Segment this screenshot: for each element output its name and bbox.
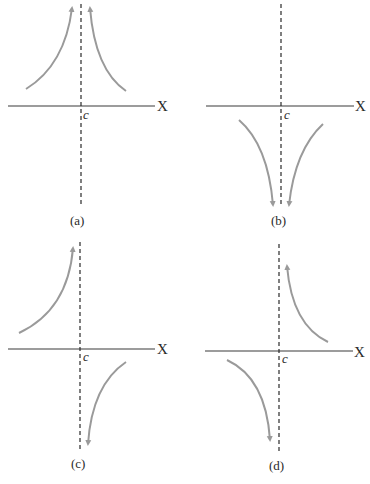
panel-c: X c (c): [8, 242, 168, 471]
point-label-c: c: [282, 351, 288, 366]
point-label-c: c: [83, 349, 89, 364]
axis-label-x: X: [354, 344, 365, 360]
caption-a: (a): [70, 213, 84, 228]
curve-right-down: [88, 362, 126, 444]
asymptote-diagrams: X c (a) X c (b) X c (c) X c (d): [0, 0, 370, 484]
point-label-c: c: [83, 107, 89, 122]
axis-label-x: X: [157, 341, 168, 357]
axis-label-x: X: [157, 98, 168, 114]
point-label-c: c: [284, 107, 290, 122]
curve-left-up: [19, 248, 73, 333]
curve-left-down: [239, 120, 273, 205]
caption-c: (c): [71, 456, 85, 471]
caption-d: (d): [269, 458, 284, 473]
axis-label-x: X: [355, 98, 366, 114]
panel-a: X c (a): [8, 4, 168, 228]
curve-left-up: [26, 8, 72, 89]
caption-b: (b): [271, 213, 286, 228]
panel-d: X c (d): [205, 244, 365, 473]
curve-left-down: [227, 360, 270, 440]
curve-right-down: [289, 124, 323, 205]
curve-right-up: [90, 8, 126, 91]
curve-right-up: [287, 266, 328, 342]
panel-b: X c (b): [206, 4, 366, 228]
